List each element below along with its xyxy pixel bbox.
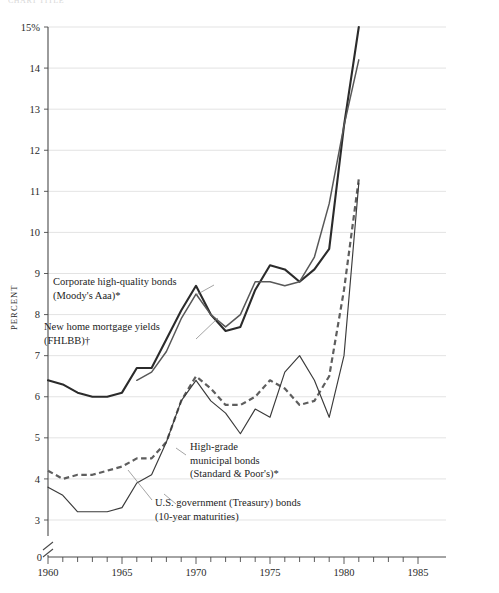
x-tick-label: 1965: [112, 567, 133, 578]
annotation-line: High-grade: [190, 441, 238, 452]
ann-municipal: High-grademunicipal bonds(Standard & Poo…: [190, 441, 279, 480]
annotation-line: (10-year maturities): [155, 511, 239, 523]
annotation-line: (FHLBB)†: [44, 335, 90, 347]
ann-mortgage: New home mortgage yields(FHLBB)†: [44, 321, 160, 347]
annotation-line: Corporate high-quality bonds: [53, 276, 177, 287]
annotation-leader-line: [176, 448, 186, 455]
annotations-group: Corporate high-quality bonds(Moody's Aaa…: [44, 276, 301, 523]
ann-corporate: Corporate high-quality bonds(Moody's Aaa…: [53, 276, 177, 302]
x-tick-labels-group: 196019651970197519801985: [38, 567, 429, 578]
y-tick-label: 15%: [21, 22, 41, 33]
y-tick-label: 3: [35, 515, 40, 526]
y-tick-label: 13: [30, 104, 41, 115]
x-tick-label: 1960: [38, 567, 59, 578]
x-tick-label: 1985: [408, 567, 429, 578]
annotation-line: (Moody's Aaa)*: [53, 290, 121, 302]
data-series-group: [48, 27, 359, 512]
y-tick-label: 8: [35, 309, 40, 320]
y-tick-label: 0: [37, 552, 42, 563]
annotation-leader-line: [128, 470, 152, 500]
interest-rate-line-chart: CHART TITLE 15%141312111098765430 196019…: [0, 0, 499, 593]
annotation-line: New home mortgage yields: [44, 321, 160, 332]
y-tick-label: 10: [30, 227, 41, 238]
y-tick-label: 9: [35, 268, 40, 279]
annotation-line: (Standard & Poor's)*: [190, 468, 279, 480]
y-tick-label: 7: [35, 350, 40, 361]
y-axis-title-group: PERCENT: [9, 285, 19, 330]
annotation-line: municipal bonds: [190, 455, 260, 466]
y-tick-label: 6: [35, 391, 40, 402]
y-tick-label: 5: [35, 432, 40, 443]
gridlines-group: [48, 27, 446, 520]
y-tick-label: 4: [35, 474, 41, 485]
ann-treasury: U.S. government (Treasury) bonds(10-year…: [155, 497, 301, 523]
y-axis-title: PERCENT: [9, 285, 19, 330]
x-tick-label: 1980: [334, 567, 355, 578]
x-tick-label: 1970: [186, 567, 207, 578]
y-tick-labels-group: 15%141312111098765430: [21, 22, 42, 563]
x-tick-label: 1975: [260, 567, 281, 578]
y-tick-label: 14: [30, 63, 41, 74]
axis-break-marks: [43, 542, 53, 557]
y-tick-label: 11: [30, 186, 40, 197]
series-line: [48, 27, 359, 397]
annotation-leader-line: [196, 318, 218, 339]
annotation-line: U.S. government (Treasury) bonds: [155, 497, 301, 509]
y-tick-label: 12: [30, 145, 41, 156]
chart-canvas: 15%141312111098765430 196019651970197519…: [0, 0, 499, 593]
